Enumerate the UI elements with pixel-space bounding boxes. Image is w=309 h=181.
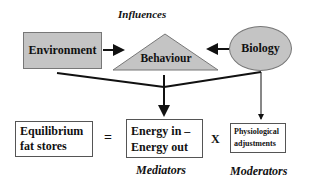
- biology-ellipse: Biology: [229, 26, 292, 71]
- equals-sign: =: [104, 130, 112, 146]
- times-sign: X: [211, 132, 220, 147]
- energy-line1: Energy in –: [131, 123, 198, 139]
- energy-line2: Energy out: [131, 139, 198, 155]
- energy-box: Energy in – Energy out: [126, 119, 203, 158]
- moderators-label: Moderators: [230, 164, 287, 179]
- environment-label: Environment: [29, 43, 97, 58]
- physiological-line2: adjustments: [234, 138, 282, 150]
- equilibrium-line2: fat stores: [20, 139, 88, 154]
- mediators-label: Mediators: [136, 163, 186, 178]
- physiological-box: Physiological adjustments: [230, 123, 286, 153]
- biology-label: Biology: [241, 41, 280, 56]
- diagram-title: Influences: [118, 8, 166, 20]
- behaviour-label: Behaviour: [136, 52, 196, 64]
- physiological-line1: Physiological: [234, 126, 282, 138]
- environment-box: Environment: [23, 32, 102, 69]
- equilibrium-box: Equilibrium fat stores: [15, 121, 93, 157]
- equilibrium-line1: Equilibrium: [20, 124, 88, 139]
